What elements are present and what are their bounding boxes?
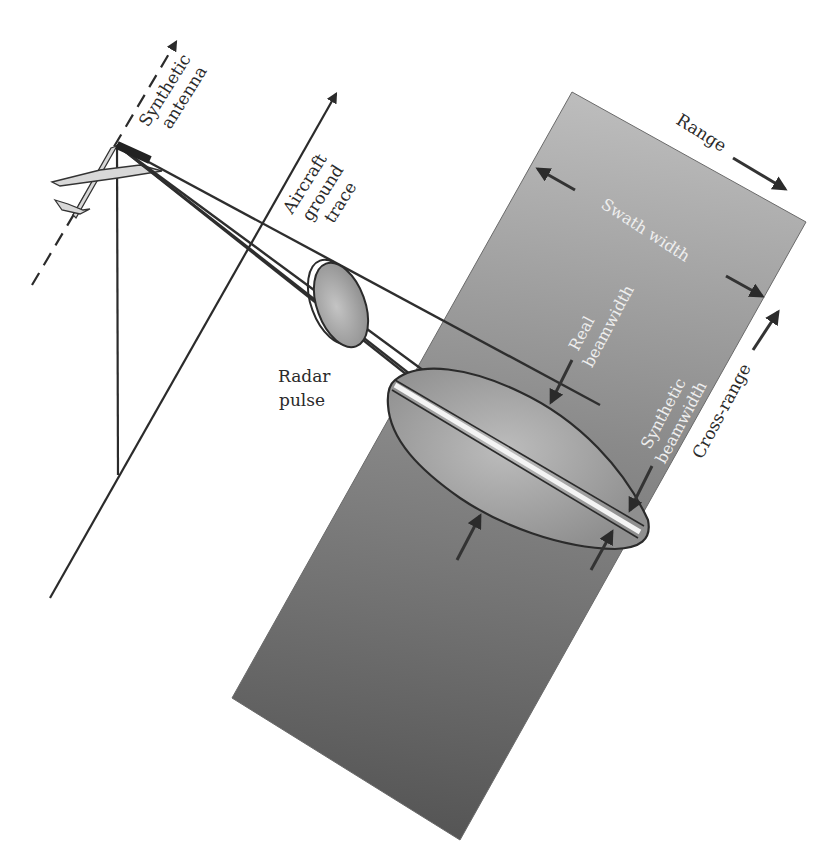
svg-text:Radar: Radar — [278, 366, 331, 386]
ground-trace-label: Aircraft ground trace — [278, 150, 365, 239]
synthetic-antenna-label: Synthetic antenna — [134, 50, 211, 141]
range-label: Range — [673, 109, 730, 155]
cross-range-direction-arrow — [753, 312, 778, 350]
radar-pulse-label: Radar pulse — [278, 366, 331, 410]
sar-geometry-diagram: Synthetic antenna Aircraft ground trace … — [0, 0, 839, 868]
svg-text:pulse: pulse — [279, 390, 325, 410]
nadir-line — [117, 145, 118, 475]
ground-trace-arrow — [50, 94, 336, 598]
range-direction-arrow — [733, 158, 785, 189]
